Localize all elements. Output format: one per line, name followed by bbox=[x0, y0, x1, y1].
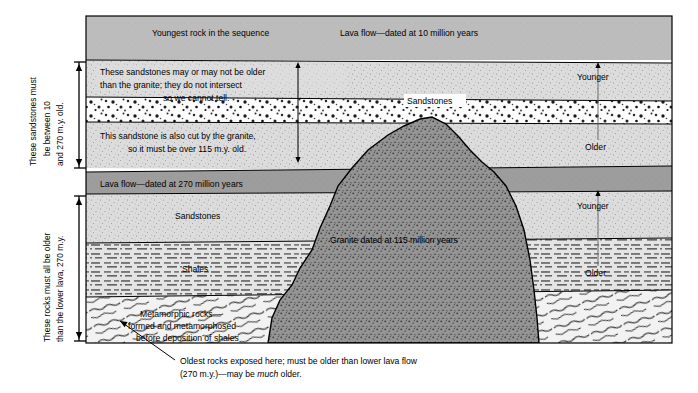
svg-text:(270 m.y.)—may be much older.: (270 m.y.)—may be much older. bbox=[180, 369, 302, 379]
figure-canvas: Youngest rock in the sequence Lava flow—… bbox=[0, 0, 698, 393]
left-bracket-upper-line3: and 270 m.y. old. bbox=[55, 102, 65, 166]
svg-text:Oldest rocks exposed here; mus: Oldest rocks exposed here; must be older… bbox=[180, 356, 418, 366]
caption-line2-b: older. bbox=[278, 369, 301, 379]
mid-sandstone-note-line1: This sandstone is also cut by the granit… bbox=[100, 131, 256, 141]
left-bracket-upper-line1: These sandstones must bbox=[28, 76, 38, 166]
caption: Oldest rocks exposed here; must be older… bbox=[180, 356, 418, 379]
age-arrow-lower-younger: Younger bbox=[577, 201, 609, 211]
upper-sandstone-note-line1: These sandstones may or may not be older bbox=[100, 67, 265, 77]
age-arrow-upper-older: Older bbox=[585, 142, 606, 152]
left-bracket-upper-line2: be between 10 bbox=[42, 101, 52, 156]
left-bracket-lower-line2: than the lower lava, 270 m.y. bbox=[55, 236, 65, 342]
shales-label: Shales bbox=[182, 264, 208, 274]
conglomerate-label-group: Sandstones bbox=[404, 94, 466, 107]
caption-line1: Oldest rocks exposed here; must be older… bbox=[180, 356, 418, 366]
top-lava-label: Lava flow—dated at 10 million years bbox=[340, 28, 478, 38]
mid-sandstone-note-line2: so it must be over 115 m.y. old. bbox=[128, 144, 246, 154]
age-arrow-upper-younger: Younger bbox=[577, 72, 609, 82]
metamorphic-note-line3: before deposition of shales bbox=[136, 333, 239, 343]
caption-line2-emphasis: much bbox=[257, 369, 278, 379]
upper-sandstone-note-line2: than the granite; they do not intersect bbox=[100, 80, 243, 90]
left-bracket-lower-text: These rocks must all be older than the l… bbox=[42, 232, 65, 342]
metamorphic-note-line2: formed and metamorphosed bbox=[128, 321, 236, 331]
caption-line2-a: (270 m.y.)—may be bbox=[180, 369, 257, 379]
granite-label: Granite dated at 115 million years bbox=[330, 235, 458, 245]
youngest-rock-label: Youngest rock in the sequence bbox=[152, 28, 269, 38]
top-lava-band bbox=[86, 16, 672, 60]
upper-sandstone-note-line3: so we cannot tell. bbox=[163, 93, 229, 103]
lower-sandstone-label: Sandstones bbox=[175, 211, 220, 221]
metamorphic-note-line1: Metamorphic rocks— bbox=[140, 309, 222, 319]
left-bracket-lower-line1: These rocks must all be older bbox=[42, 232, 52, 342]
conglomerate-label: Sandstones bbox=[407, 96, 452, 106]
left-bracket-upper bbox=[74, 62, 86, 168]
lower-lava-label: Lava flow—dated at 270 million years bbox=[100, 179, 243, 189]
age-arrow-lower-older: Older bbox=[585, 268, 606, 278]
left-bracket-upper-text: These sandstones must be between 10 and … bbox=[28, 76, 65, 166]
left-bracket-lower bbox=[74, 196, 86, 341]
